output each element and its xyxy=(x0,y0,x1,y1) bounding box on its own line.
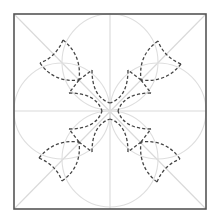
quadrant-bottom-left xyxy=(39,111,110,181)
diagram-canvas: Quilt pattern template: dashed cross wit… xyxy=(0,0,219,215)
pattern-svg xyxy=(0,0,219,215)
